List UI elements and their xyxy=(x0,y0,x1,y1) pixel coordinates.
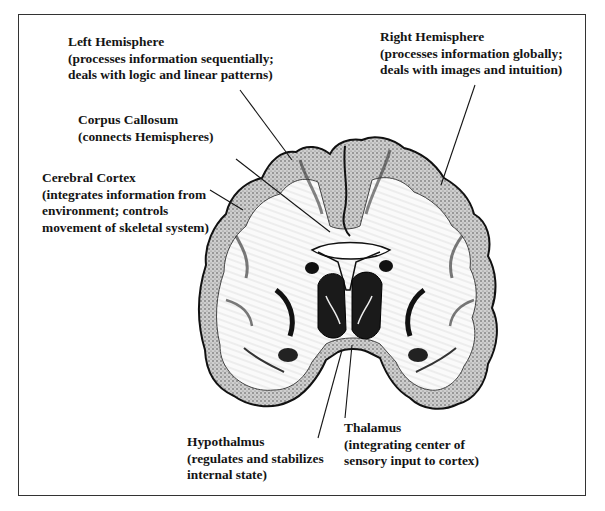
label-desc: (processes information globally; xyxy=(380,46,563,63)
label-title: Thalamus xyxy=(344,420,479,437)
thalamus-left xyxy=(318,274,346,338)
label-thalamus: Thalamus (integrating center of sensory … xyxy=(344,420,479,470)
label-hypothalmus: Hypothalmus (regulates and stabilizes in… xyxy=(187,434,324,484)
label-cerebral-cortex: Cerebral Cortex (integrates information … xyxy=(42,170,209,236)
leader-line-left-hemisphere xyxy=(240,90,292,160)
label-title: Cerebral Cortex xyxy=(42,170,209,187)
label-desc: (processes information sequentially; xyxy=(68,51,274,68)
label-desc: deals with images and intuition) xyxy=(380,62,563,79)
label-desc: environment; controls xyxy=(42,203,209,220)
label-left-hemisphere: Left Hemisphere (processes information s… xyxy=(68,34,274,84)
label-title: Left Hemisphere xyxy=(68,34,274,51)
label-desc: internal state) xyxy=(187,467,324,484)
leader-line-right-hemisphere xyxy=(441,85,475,185)
label-title: Right Hemisphere xyxy=(380,29,563,46)
label-desc: sensory input to cortex) xyxy=(344,453,479,470)
label-right-hemisphere: Right Hemisphere (processes information … xyxy=(380,29,563,79)
label-desc: (regulates and stabilizes xyxy=(187,451,324,468)
label-desc: deals with logic and linear patterns) xyxy=(68,67,274,84)
label-title: Hypothalmus xyxy=(187,434,324,451)
label-desc: (integrates information from xyxy=(42,187,209,204)
label-desc: movement of skeletal system) xyxy=(42,220,209,237)
label-title: Corpus Callosum xyxy=(78,112,214,129)
label-corpus-callosum: Corpus Callosum (connects Hemispheres) xyxy=(78,112,214,145)
label-desc: (integrating center of xyxy=(344,437,479,454)
leader-line-thalamus xyxy=(345,345,352,418)
label-desc: (connects Hemispheres) xyxy=(78,129,214,146)
